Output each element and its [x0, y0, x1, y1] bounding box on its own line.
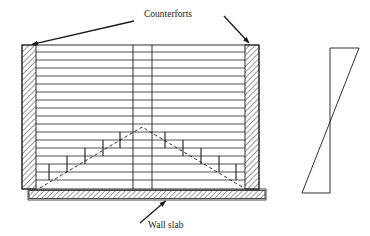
wall-slab-group — [28, 189, 266, 200]
counterforts-label: Counterforts — [144, 9, 192, 19]
counterforts-arrow-right — [224, 16, 249, 43]
wall-slab-label: Wall slab — [148, 220, 184, 230]
wall-panel-outline — [22, 45, 259, 189]
counterforts-arrow-left — [32, 21, 134, 44]
counterfort-wall-diagram: Counterforts Wall slab — [0, 0, 370, 236]
figure-container: Counterforts Wall slab — [0, 0, 370, 236]
counterfort-right — [245, 45, 259, 189]
bmd-diagonal — [302, 48, 359, 193]
counterfort-left — [22, 45, 36, 189]
bending-moment-diagram — [302, 48, 359, 193]
wall-slab-hatch — [29, 191, 265, 199]
wall-panel-group — [22, 45, 259, 189]
